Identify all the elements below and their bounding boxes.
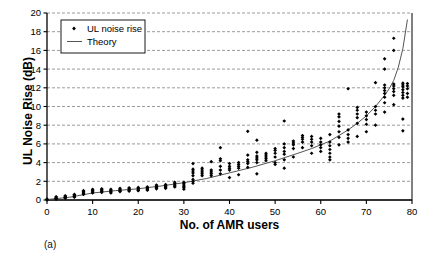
- data-point: [383, 110, 387, 114]
- y-tick-label-6: 6: [36, 138, 41, 149]
- data-point: [355, 135, 359, 139]
- y-tick-label-10: 10: [30, 101, 41, 112]
- data-point: [355, 116, 359, 120]
- data-point: [346, 140, 350, 144]
- data-point: [346, 133, 350, 137]
- data-point: [282, 150, 286, 154]
- data-point: [246, 158, 250, 162]
- data-point: [383, 57, 387, 61]
- data-point: [365, 118, 369, 122]
- data-point: [401, 117, 405, 121]
- data-point: [310, 135, 314, 139]
- data-point: [273, 147, 277, 151]
- data-point: [374, 112, 378, 116]
- x-tick-label-60: 60: [315, 206, 326, 217]
- data-point: [237, 173, 241, 177]
- data-point: [383, 83, 387, 87]
- y-tick-label-0: 0: [36, 194, 41, 205]
- data-point: [255, 150, 259, 154]
- data-point: [209, 168, 213, 172]
- data-point: [328, 155, 332, 159]
- data-point: [237, 161, 241, 165]
- data-point: [246, 129, 250, 133]
- data-point: [374, 108, 378, 112]
- data-point: [401, 129, 405, 133]
- x-axis-ticks: 01020304050607080: [44, 200, 417, 217]
- data-point: [392, 93, 396, 97]
- data-point: [374, 81, 378, 85]
- data-point: [392, 36, 396, 40]
- data-point: [282, 142, 286, 146]
- data-point: [365, 110, 369, 114]
- x-tick-label-50: 50: [270, 206, 281, 217]
- data-point: [282, 166, 286, 170]
- x-tick-label-80: 80: [407, 206, 418, 217]
- data-point: [392, 49, 396, 53]
- data-point: [374, 123, 378, 127]
- data-point: [319, 140, 323, 144]
- data-point: [328, 133, 332, 137]
- x-tick-label-30: 30: [179, 206, 190, 217]
- figure-panel: UL Noise Rise (dB) No. of AMR users (a) …: [0, 0, 438, 263]
- data-point: [337, 130, 341, 134]
- x-tick-label-70: 70: [361, 206, 372, 217]
- data-point: [319, 150, 323, 154]
- x-tick-label-20: 20: [133, 206, 144, 217]
- data-point: [383, 67, 387, 71]
- y-axis-ticks: 02468101214161820: [30, 7, 47, 205]
- scatter-chart: 02468101214161820 01020304050607080 UL n…: [0, 0, 438, 263]
- data-point: [292, 139, 296, 143]
- y-tick-label-16: 16: [30, 45, 41, 56]
- data-point: [365, 130, 369, 134]
- data-point: [337, 112, 341, 116]
- y-tick-label-8: 8: [36, 120, 41, 131]
- data-point: [328, 144, 332, 148]
- legend-label-1: Theory: [87, 36, 117, 47]
- data-point: [219, 146, 223, 150]
- data-point: [301, 134, 305, 138]
- data-point: [310, 151, 314, 155]
- x-tick-label-0: 0: [44, 206, 49, 217]
- data-point: [200, 166, 204, 170]
- data-point: [406, 95, 410, 99]
- legend-label-0: UL noise rise: [87, 23, 142, 34]
- data-point: [292, 147, 296, 151]
- chart-legend: UL noise riseTheory: [61, 20, 145, 53]
- data-point: [401, 81, 405, 85]
- data-point: [383, 101, 387, 105]
- data-point: [264, 151, 268, 155]
- data-point: [328, 148, 332, 152]
- data-point: [310, 144, 314, 148]
- y-tick-label-18: 18: [30, 26, 41, 37]
- y-tick-label-14: 14: [30, 64, 41, 75]
- data-point: [255, 172, 259, 176]
- x-tick-label-40: 40: [224, 206, 235, 217]
- data-point: [301, 146, 305, 150]
- data-point: [392, 103, 396, 107]
- data-point: [219, 168, 223, 172]
- data-point: [246, 153, 250, 157]
- data-point: [337, 120, 341, 124]
- data-point: [219, 157, 223, 161]
- y-tick-label-12: 12: [30, 82, 41, 93]
- data-point: [328, 151, 332, 155]
- data-point: [255, 138, 259, 142]
- data-point: [191, 167, 195, 171]
- data-point: [282, 146, 286, 150]
- data-point: [383, 95, 387, 99]
- y-tick-label-2: 2: [36, 176, 41, 187]
- data-point: [406, 82, 410, 86]
- data-point: [355, 112, 359, 116]
- data-point: [273, 155, 277, 159]
- data-point: [228, 176, 232, 180]
- data-point: [319, 136, 323, 140]
- data-point: [255, 154, 259, 158]
- y-tick-label-4: 4: [36, 157, 41, 168]
- x-tick-label-10: 10: [87, 206, 98, 217]
- y-tick-label-20: 20: [30, 7, 41, 18]
- data-point: [282, 119, 286, 123]
- ul-noise-rise-points: [45, 36, 409, 201]
- data-point: [406, 92, 410, 96]
- data-point: [219, 164, 223, 168]
- data-point: [346, 136, 350, 140]
